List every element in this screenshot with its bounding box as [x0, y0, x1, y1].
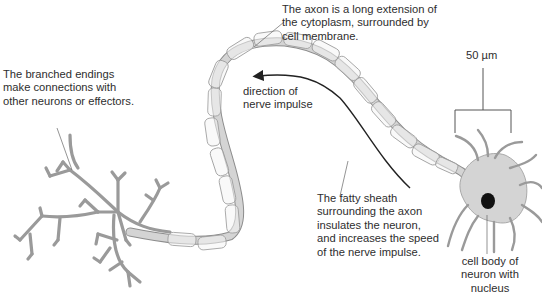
direction-label: direction of nerve impulse: [243, 85, 313, 112]
cell-body-label: cell body of neuron with nucleus: [458, 255, 522, 295]
branched-endings: [15, 135, 170, 286]
scale-bar-label: 50 µm: [466, 49, 497, 62]
cell-body: [448, 130, 542, 252]
nucleus: [481, 193, 495, 209]
scale-bar: [455, 68, 511, 133]
neuron-diagram: [0, 0, 542, 296]
fatty-sheath-label: The fatty sheath surrounding the axon in…: [317, 192, 439, 259]
axon-label: The axon is a long extension of the cyto…: [282, 3, 437, 43]
branched-endings-label: The branched endings make connections wi…: [3, 68, 134, 108]
